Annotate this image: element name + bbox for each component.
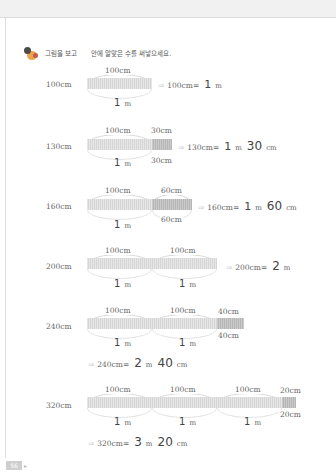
arrow-icon: ⇒	[158, 81, 164, 90]
remainder-bar	[217, 318, 244, 329]
remainder-bottom-label: 60cm	[160, 215, 183, 224]
segment-meter-label: 1m	[114, 278, 131, 289]
remainder-bottom-label: 20cm	[279, 410, 302, 419]
length-bar	[87, 258, 217, 269]
row-label: 240cm	[46, 322, 72, 331]
segment-top-label: 60cm	[160, 186, 183, 195]
answer-value: 1	[244, 200, 251, 213]
remainder-bottom-label: 30cm	[150, 156, 173, 165]
row-label: 320cm	[46, 401, 72, 410]
row-label: 200cm	[46, 262, 72, 271]
segment-top-label: 100cm	[104, 246, 132, 255]
segment-top-label: 100cm	[104, 385, 132, 394]
answer-value: 40	[158, 356, 173, 370]
segment-meter-label: 1m	[179, 337, 196, 348]
answer-value: 1	[204, 78, 211, 91]
arrow-icon: ⇒	[178, 143, 184, 152]
segment-top-label: 100cm	[104, 126, 132, 135]
segment-top-label: 20cm	[279, 386, 302, 395]
equation: ⇒ 200cm= 2 m	[226, 259, 291, 273]
answer-value: 2	[134, 356, 142, 370]
segment-meter-label: 1m	[244, 416, 261, 427]
segment-top-label: 100cm	[169, 246, 197, 255]
arrow-icon: ⇒	[226, 263, 232, 272]
length-bar	[87, 199, 152, 210]
equation: ⇒ 160cm= 1 m 60 cm	[198, 199, 297, 213]
length-bar	[87, 78, 152, 89]
instruction-part1: 그림을 보고	[45, 48, 77, 58]
equation: ⇒ 100cm= 1 m	[158, 78, 222, 91]
segment-top-label: 30cm	[150, 126, 173, 135]
answer-value: 1	[224, 140, 231, 153]
answer-value: 2	[272, 259, 280, 273]
row-label: 160cm	[46, 202, 72, 211]
segment-meter-label: 1m	[114, 219, 131, 230]
answer-value: 60	[267, 199, 282, 213]
answer-value: 3	[134, 435, 142, 449]
answer-value: 20	[158, 435, 173, 449]
segment-top-label: 100cm	[169, 385, 197, 394]
page-arrow-icon: ▸	[24, 462, 27, 469]
row-label: 130cm	[46, 142, 72, 151]
equation: ⇒ 240cm= 2 m 40 cm	[88, 356, 187, 370]
remainder-bar	[152, 199, 192, 210]
segment-meter-label: 1m	[114, 157, 131, 168]
segment-top-label: 100cm	[104, 186, 132, 195]
arrow-icon: ⇒	[198, 203, 204, 212]
segment-top-label: 40cm	[217, 307, 240, 316]
instruction-part2: 안에 알맞은 수를 써넣으세요.	[91, 48, 171, 58]
row-label: 100cm	[46, 80, 72, 89]
remainder-bar	[152, 139, 172, 150]
segment-top-label: 100cm	[104, 306, 132, 315]
segment-meter-label: 1m	[179, 416, 196, 427]
remainder-bottom-label: 40cm	[217, 331, 240, 340]
mascot-icon	[24, 47, 39, 60]
segment-meter-label: 1m	[114, 337, 131, 348]
arrow-icon: ⇒	[88, 439, 94, 448]
segment-meter-label: 1m	[114, 416, 131, 427]
segment-meter-label: 1m	[179, 278, 196, 289]
equation: ⇒ 130cm= 1 m 30 cm	[178, 139, 277, 153]
length-bar	[87, 318, 217, 329]
instruction: 그림을 보고 안에 알맞은 수를 써넣으세요.	[24, 46, 171, 60]
segment-top-label: 100cm	[169, 306, 197, 315]
length-bar	[87, 139, 152, 150]
answer-value: 30	[247, 139, 262, 153]
arrow-icon: ⇒	[88, 360, 94, 369]
top-band	[0, 0, 336, 18]
length-bar	[87, 397, 282, 408]
remainder-bar	[282, 397, 296, 408]
left-margin-rule	[5, 18, 6, 458]
segment-top-label: 100cm	[234, 385, 262, 394]
equation: ⇒ 320cm= 3 m 20 cm	[88, 435, 187, 449]
segment-top-label: 100cm	[104, 66, 132, 75]
segment-meter-label: 1m	[114, 97, 131, 108]
page-number: 56	[6, 461, 22, 470]
